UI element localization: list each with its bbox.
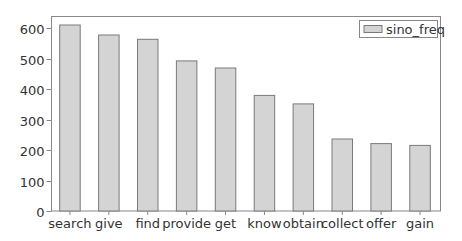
x-tick-label: give — [95, 216, 123, 231]
y-tick-label: 400 — [20, 83, 45, 98]
y-tick-label: 300 — [20, 114, 45, 129]
bar-obtain — [293, 104, 314, 211]
bar-offer — [371, 144, 392, 211]
y-tick-label: 500 — [20, 53, 45, 68]
bar-provide — [176, 61, 197, 211]
y-axis: 0100200300400500600 — [20, 22, 52, 220]
y-tick-label: 600 — [20, 22, 45, 37]
x-tick-label: gain — [406, 216, 434, 231]
y-tick-label: 100 — [20, 175, 45, 190]
bar-find — [138, 39, 159, 211]
x-tick-label: know — [247, 216, 282, 231]
x-tick-label: find — [135, 216, 160, 231]
legend-label: sino_freq — [386, 22, 445, 37]
legend-swatch — [364, 26, 382, 33]
y-tick-label: 200 — [20, 144, 45, 159]
bar-know — [254, 95, 275, 211]
x-tick-label: collect — [321, 216, 364, 231]
bar-chart: 0100200300400500600 searchgivefindprovid… — [0, 0, 462, 241]
bar-search — [60, 25, 80, 211]
bar-collect — [332, 139, 353, 211]
bar-get — [215, 68, 236, 211]
bar-give — [99, 35, 120, 211]
x-tick-label: get — [215, 216, 236, 231]
x-tick-label: search — [48, 216, 91, 231]
x-axis: searchgivefindprovidegetknowobtaincollec… — [48, 211, 434, 231]
x-tick-label: offer — [366, 216, 397, 231]
x-tick-label: obtain — [283, 216, 324, 231]
y-tick-label: 0 — [36, 205, 44, 220]
bar-gain — [410, 145, 431, 211]
legend: sino_freq — [360, 21, 445, 38]
x-tick-label: provide — [162, 216, 211, 231]
